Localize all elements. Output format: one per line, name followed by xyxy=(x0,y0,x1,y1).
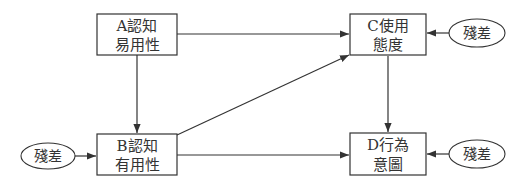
node-b-perceived-usefulness: B認知 有用性 xyxy=(97,134,177,175)
node-d-label-line2: 意圖 xyxy=(373,156,403,174)
node-a-label-line1: A認知 xyxy=(116,17,158,35)
residual-c-label: 殘差 xyxy=(463,25,491,41)
edge-b-to-c xyxy=(177,55,349,135)
node-b-label-line2: 有用性 xyxy=(115,156,160,174)
residual-b: 殘差 xyxy=(21,143,75,169)
residual-c: 殘差 xyxy=(449,19,505,47)
residual-d-label: 殘差 xyxy=(463,146,491,162)
residual-d: 殘差 xyxy=(449,140,505,168)
residual-b-label: 殘差 xyxy=(34,148,62,164)
node-c-label-line2: 態度 xyxy=(373,36,403,54)
path-diagram: A認知 易用性 B認知 有用性 C使用 態度 D行為 意圖 殘差 殘差 殘差 xyxy=(0,0,520,191)
node-c-label-line1: C使用 xyxy=(367,17,408,35)
node-c-attitude: C使用 態度 xyxy=(350,14,426,55)
node-b-label-line1: B認知 xyxy=(116,137,157,155)
node-a-perceived-ease-of-use: A認知 易用性 xyxy=(97,14,177,55)
node-d-label-line1: D行為 xyxy=(367,136,409,154)
node-d-behavioral-intention: D行為 意圖 xyxy=(350,133,426,175)
node-a-label-line2: 易用性 xyxy=(115,36,160,54)
